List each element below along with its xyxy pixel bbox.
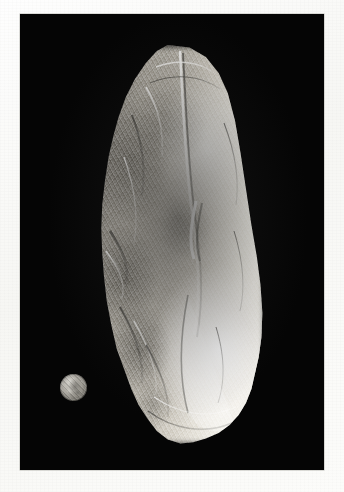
stone-edge-rim-shadow [84,45,266,445]
photograph-page: large elongated ovate stone implement, f… [0,0,344,492]
stone-tool-artifact [84,45,266,445]
scale-coin [60,374,87,401]
coin-rim [61,375,86,400]
photo-plate [20,14,324,470]
